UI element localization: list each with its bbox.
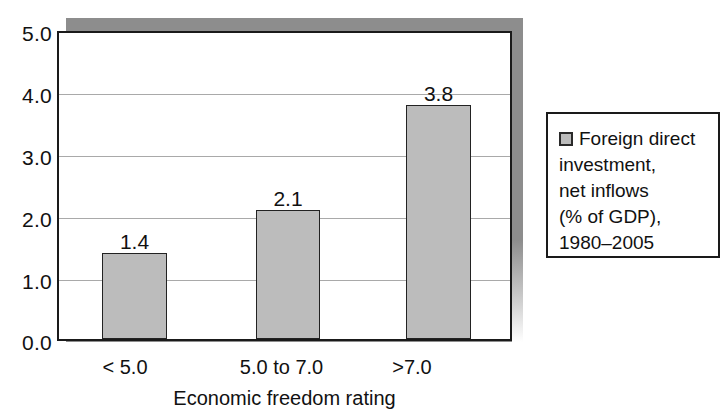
y-tick-label: 2.0	[6, 209, 52, 230]
x-tick-label-lt-5: < 5.0	[70, 357, 180, 377]
legend-line-1: Foreign direct	[579, 126, 715, 152]
y-tick-label: 5.0	[6, 23, 52, 44]
legend-line-2: investment,	[559, 152, 715, 178]
bar-gt-7[interactable]	[406, 105, 471, 339]
x-axis-title: Economic freedom rating	[57, 388, 512, 408]
legend-line-4: (% of GDP),	[559, 204, 715, 230]
y-tick-label: 0.0	[6, 332, 52, 353]
legend-swatch-icon	[559, 132, 573, 146]
bar-5-to-7[interactable]	[256, 210, 320, 339]
legend: Foreign direct investment, net inflows (…	[546, 112, 720, 258]
bar-value-label: 1.4	[102, 231, 167, 252]
x-tick-label-gt-7: >7.0	[357, 357, 467, 377]
y-axis: 5.0 4.0 3.0 2.0 1.0 0.0	[2, 0, 52, 418]
plot-area: 1.4 2.1 3.8	[57, 31, 512, 341]
y-tick-label: 3.0	[6, 147, 52, 168]
legend-line-3: net inflows	[559, 178, 715, 204]
bar-lt-5[interactable]	[102, 253, 167, 339]
bar-chart: 5.0 4.0 3.0 2.0 1.0 0.0 1.4 2.1 3.8 < 5.…	[0, 0, 723, 418]
y-tick-label: 1.0	[6, 271, 52, 292]
plot-shadow-fade	[512, 240, 523, 342]
legend-line-5: 1980–2005	[559, 230, 715, 256]
x-tick-label-5-to-7: 5.0 to 7.0	[219, 357, 344, 377]
bar-value-label: 2.1	[256, 188, 320, 209]
legend-label: Foreign direct investment, net inflows (…	[579, 126, 715, 256]
bar-value-label: 3.8	[406, 83, 471, 104]
y-tick-label: 4.0	[6, 85, 52, 106]
